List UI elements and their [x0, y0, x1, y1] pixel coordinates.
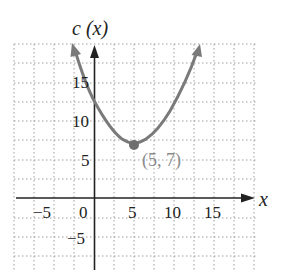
y-axis-arrow-icon — [90, 45, 99, 58]
parabola-chart: c (x) x (5, 7) −5 0 5 10 15 15 10 5 −5 — [0, 0, 287, 270]
axes — [16, 45, 255, 270]
x-tick-15: 15 — [204, 203, 221, 222]
x-tick-0: 0 — [79, 203, 88, 222]
curve-left-arrow-icon — [71, 43, 82, 57]
vertex-point — [129, 140, 139, 150]
y-axis-label: c (x) — [72, 17, 108, 40]
grid — [14, 44, 256, 270]
y-tick-neg5: −5 — [67, 229, 85, 248]
vertex-label: (5, 7) — [142, 150, 181, 171]
parabola-curve — [71, 43, 203, 150]
x-axis-label: x — [258, 188, 268, 210]
y-tick-10: 10 — [72, 112, 89, 131]
x-tick-neg5: −5 — [33, 203, 51, 222]
y-tick-15: 15 — [72, 73, 89, 92]
x-tick-5: 5 — [128, 203, 137, 222]
y-tick-5: 5 — [81, 151, 90, 170]
curve-right-arrow-icon — [192, 44, 203, 57]
x-tick-10: 10 — [164, 203, 181, 222]
x-axis-arrow-icon — [241, 194, 255, 203]
